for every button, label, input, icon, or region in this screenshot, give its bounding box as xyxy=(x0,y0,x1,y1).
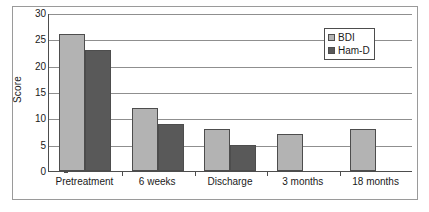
x-axis-label: 3 months xyxy=(266,176,339,187)
bar-bdi xyxy=(132,108,158,171)
x-axis-labels: Pretreatment6 weeksDischarge3 months18 m… xyxy=(48,176,412,187)
bar-group xyxy=(194,14,267,171)
bar-group xyxy=(49,14,122,171)
chart-figure: Score 051015202530 Pretreatment6 weeksDi… xyxy=(0,0,429,212)
x-axis-label: Pretreatment xyxy=(48,176,121,187)
x-axis-label: Discharge xyxy=(194,176,267,187)
legend-swatch-icon xyxy=(328,47,335,54)
legend-item: BDI xyxy=(328,31,370,44)
bar-bdi xyxy=(204,129,230,171)
chart-legend: BDIHam-D xyxy=(324,28,375,60)
bar-bdi xyxy=(277,134,303,171)
y-tick-label: 10 xyxy=(20,114,46,124)
y-tick-label: 5 xyxy=(20,141,46,151)
bar-group xyxy=(122,14,195,171)
bar-hamd xyxy=(158,124,184,171)
bar-hamd xyxy=(230,145,256,171)
bar-hamd xyxy=(85,50,111,171)
legend-item: Ham-D xyxy=(328,44,370,57)
x-axis-label: 6 weeks xyxy=(121,176,194,187)
x-axis-label: 18 months xyxy=(339,176,412,187)
y-tick-mark xyxy=(64,172,68,173)
bar-bdi xyxy=(59,34,85,171)
bar-bdi xyxy=(350,129,376,171)
y-tick-label: 0 xyxy=(20,167,46,177)
y-tick-label: 30 xyxy=(20,9,46,19)
y-axis-ticks: 051015202530 xyxy=(20,14,46,172)
legend-label: Ham-D xyxy=(338,46,370,56)
y-tick-label: 15 xyxy=(20,88,46,98)
legend-label: BDI xyxy=(338,33,355,43)
y-tick-label: 20 xyxy=(20,62,46,72)
legend-swatch-icon xyxy=(328,34,335,41)
y-tick-label: 25 xyxy=(20,35,46,45)
